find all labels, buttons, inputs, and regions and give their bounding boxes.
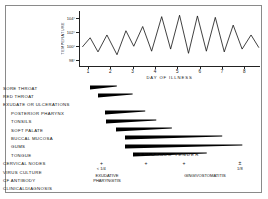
temperature-polyline xyxy=(82,15,259,54)
x-tick-label: 8 xyxy=(240,69,248,74)
temperature-curve-plot xyxy=(79,11,260,63)
chart-page: TEMPERATURE 104°102°100°98° 12345678 DAY… xyxy=(0,0,268,199)
symptom-label: SOFT PALATE xyxy=(3,126,79,134)
symptom-duration-bar xyxy=(106,118,156,126)
symptom-label: TONSILS xyxy=(3,118,79,126)
symptom-duration-bar xyxy=(125,134,222,142)
bar-wedge xyxy=(90,85,117,89)
symptom-label: POSTERIOR PHARYNX xyxy=(3,109,79,117)
x-axis-line xyxy=(79,66,260,67)
annotation-label: CERVICAL NODES xyxy=(3,160,79,168)
cervical-nodes-annotation: ENLARGED TENDER xyxy=(79,152,260,157)
symptom-label: SORE THROAT xyxy=(3,84,79,92)
bar-wedge xyxy=(125,136,222,140)
bar-wedge xyxy=(105,111,145,115)
symptom-label-column: SORE THROATRED THROATEXUDATE OR ULCERATI… xyxy=(3,84,79,193)
cf-antibody-titer: < 1/4 xyxy=(92,166,110,171)
x-tick-label: 5 xyxy=(173,69,181,74)
diagnosis-left: EXUDATIVE PHARYNGITIS xyxy=(85,174,129,183)
cf-antibody-titer: 1/8 xyxy=(231,166,249,171)
bar-wedge xyxy=(125,144,242,148)
symptom-label: GUMS xyxy=(3,143,79,151)
bar-wedge xyxy=(106,119,156,123)
x-tick-label: 1 xyxy=(84,69,92,74)
annotation-label: CF ANTIBODY xyxy=(3,176,79,184)
symptom-duration-bar xyxy=(105,109,145,117)
temperature-line xyxy=(79,11,260,63)
bar-wedge xyxy=(116,127,172,131)
symptom-label: TONGUE xyxy=(3,151,79,159)
y-tick-label: 102° xyxy=(61,30,75,35)
x-tick-label: 2 xyxy=(106,69,114,74)
symptom-timeline-bars xyxy=(79,84,260,152)
symptom-duration-bar xyxy=(90,84,117,92)
bar-wedge xyxy=(98,94,133,98)
diagnosis-right: GINGIVOSTOMATITIS xyxy=(165,174,245,179)
x-tick-label: 3 xyxy=(129,69,137,74)
symptom-label: RED THROAT xyxy=(3,92,79,100)
symptom-duration-bar xyxy=(98,92,133,100)
clinical-diagnosis-label-line1: CLINICAL xyxy=(3,187,25,192)
symptom-label: EXUDATE OR ULCERATIONS xyxy=(3,101,79,109)
y-tick-label: 104° xyxy=(61,16,75,21)
annotation-label: VIRUS CULTURE xyxy=(3,168,79,176)
symptom-label: BUCCAL MUCOSA xyxy=(3,134,79,142)
symptom-duration-bar xyxy=(125,143,242,151)
x-tick-label: 7 xyxy=(218,69,226,74)
clinical-diagnosis-label-line2: DIAGNOSIS xyxy=(25,187,52,192)
clinical-diagnosis-label: CLINICALDIAGNOSIS xyxy=(3,185,79,193)
x-tick-label: 6 xyxy=(196,69,204,74)
y-tick-label: 100° xyxy=(61,44,75,49)
x-axis-title: DAY OF ILLNESS xyxy=(79,75,260,80)
diagnosis-right-line1: GINGIVOSTOMATITIS xyxy=(165,174,245,179)
symptom-duration-bar xyxy=(116,126,172,134)
diagnosis-left-line2: PHARYNGITIS xyxy=(85,179,129,184)
x-tick-label: 4 xyxy=(151,69,159,74)
y-tick-label: 98° xyxy=(61,58,75,63)
